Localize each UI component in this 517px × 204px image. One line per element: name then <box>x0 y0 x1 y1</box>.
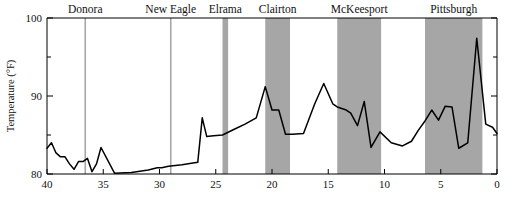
x-tick-label: 40 <box>42 178 54 190</box>
x-tick-label: 15 <box>323 178 335 190</box>
town-label-donora: Donora <box>68 3 103 15</box>
shaded-band-elrama <box>223 18 229 174</box>
town-label-mckeesport: McKeesport <box>331 3 389 16</box>
chart-container: 80901004035302520151050 DonoraNew EagleE… <box>0 0 517 204</box>
x-tick-label: 35 <box>98 178 110 190</box>
chart-town-labels: DonoraNew EagleElramaClairtonMcKeesportP… <box>68 3 477 16</box>
town-label-pittsburgh: Pittsburgh <box>430 3 477 16</box>
chart-marker-lines <box>85 18 171 174</box>
x-tick-label: 10 <box>379 178 391 190</box>
shaded-band-pittsburgh <box>425 18 482 174</box>
x-tick-label: 30 <box>154 178 166 190</box>
shaded-band-mckeesport <box>337 18 381 174</box>
town-label-new-eagle: New Eagle <box>145 3 196 16</box>
shaded-band-clairton <box>265 18 290 174</box>
x-tick-label: 5 <box>438 178 444 190</box>
y-tick-label: 90 <box>31 90 43 102</box>
x-tick-label: 0 <box>494 178 500 190</box>
chart-bands <box>223 18 483 174</box>
x-tick-label: 20 <box>267 178 279 190</box>
chart-axis-title: Temperature (°F) <box>5 59 17 132</box>
x-tick-label: 25 <box>210 178 222 190</box>
town-label-clairton: Clairton <box>259 3 297 15</box>
temperature-line-chart: 80901004035302520151050 DonoraNew EagleE… <box>0 0 517 204</box>
town-label-elrama: Elrama <box>209 3 242 15</box>
y-tick-label: 100 <box>26 12 43 24</box>
y-axis-title: Temperature (°F) <box>5 59 17 132</box>
